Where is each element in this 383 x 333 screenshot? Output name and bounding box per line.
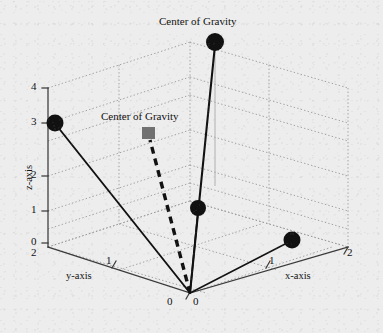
connector-line-cog — [150, 140, 190, 293]
plot-canvas — [0, 0, 383, 333]
z-tick-3: 3 — [31, 116, 37, 127]
cog-top-label: Center of Gravity — [159, 16, 237, 27]
x-tick-2: 2 — [347, 247, 353, 258]
y-axis-title: y-axis — [66, 271, 92, 282]
x-tick-0: 0 — [193, 296, 199, 307]
z-tick-4: 4 — [31, 81, 37, 92]
cog-inner-label: Center of Gravity — [101, 111, 179, 122]
data-point-1 — [206, 33, 224, 51]
data-point-3 — [190, 200, 206, 216]
connector-to-point-2 — [57, 126, 190, 293]
axis-lines — [42, 88, 348, 299]
x-axis-title: x-axis — [285, 271, 311, 282]
y-tick-0: 0 — [167, 296, 173, 307]
connector-lines-solid — [57, 45, 289, 293]
center-of-gravity-marker — [142, 127, 155, 139]
z-tick-2: 2 — [31, 169, 37, 180]
y-tick-2: 2 — [31, 247, 37, 258]
data-point-markers — [47, 33, 301, 249]
data-point-2 — [47, 115, 64, 132]
chart-3d-scatter: Center of Gravity Center of Gravity z-ax… — [0, 0, 383, 333]
y-tick-1: 1 — [106, 255, 112, 266]
connector-to-point-4 — [190, 242, 289, 293]
z-tick-1: 1 — [31, 204, 37, 215]
connector-to-point-3 — [190, 211, 198, 293]
grid-lines — [48, 42, 348, 293]
x-tick-1: 1 — [269, 255, 275, 266]
data-point-4 — [284, 232, 301, 249]
